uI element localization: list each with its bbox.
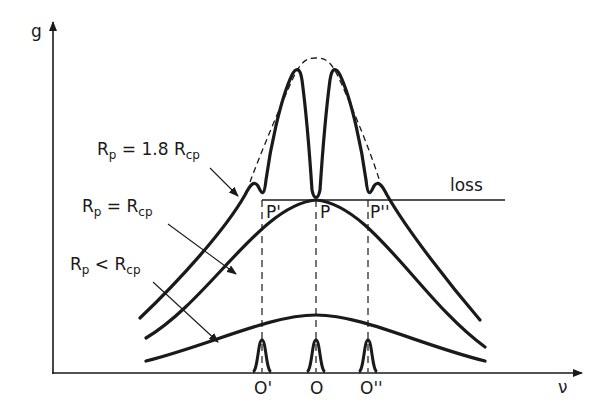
point-p-center: P xyxy=(320,202,330,222)
label-curve-bottom: Rp < Rcp xyxy=(70,254,141,277)
mode-label-left: O' xyxy=(254,378,272,398)
curve-top xyxy=(140,70,480,320)
loss-label: loss xyxy=(450,175,483,195)
arrow-curve-middle xyxy=(168,224,236,274)
arrow-curve-top xyxy=(210,168,238,196)
svg-text:Rp < Rcp: Rp < Rcp xyxy=(70,254,141,277)
mode-label-center: O xyxy=(310,378,323,398)
y-axis-label: g xyxy=(31,21,42,41)
svg-text:Rp = Rcp: Rp = Rcp xyxy=(82,196,153,219)
svg-text:Rp = 1.8 Rcp: Rp = 1.8 Rcp xyxy=(97,139,200,162)
label-curve-middle: Rp = Rcp xyxy=(82,196,153,219)
arrow-curve-bottom xyxy=(153,282,218,342)
gain-curve-diagram: g ν loss P' P P'' O' O O'' Rp = 1.8 Rcp … xyxy=(0,0,611,410)
point-p-right: P'' xyxy=(370,202,390,222)
x-axis-label: ν xyxy=(558,377,568,397)
point-p-left: P' xyxy=(266,202,281,222)
mode-label-right: O'' xyxy=(360,378,383,398)
label-curve-top: Rp = 1.8 Rcp xyxy=(97,139,200,162)
